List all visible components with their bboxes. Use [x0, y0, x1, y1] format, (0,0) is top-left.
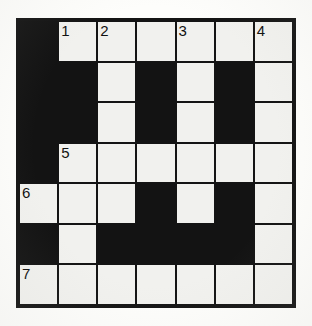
crossword-open-cell[interactable]: 4 — [254, 21, 293, 62]
clue-number: 2 — [100, 22, 108, 39]
crossword-open-cell[interactable] — [97, 183, 136, 224]
crossword-open-cell[interactable] — [176, 62, 215, 103]
crossword-open-cell[interactable] — [58, 264, 97, 305]
crossword-open-cell[interactable] — [97, 264, 136, 305]
clue-number: 1 — [61, 22, 69, 39]
crossword-block-cell — [136, 224, 175, 265]
crossword-open-cell[interactable] — [215, 264, 254, 305]
crossword-open-cell[interactable] — [136, 143, 175, 184]
crossword-open-cell[interactable] — [176, 183, 215, 224]
crossword-block-cell — [58, 62, 97, 103]
crossword-block-cell — [97, 224, 136, 265]
crossword-block-cell — [58, 102, 97, 143]
crossword-block-cell — [19, 143, 58, 184]
crossword-open-cell[interactable] — [254, 264, 293, 305]
crossword-open-cell[interactable] — [254, 183, 293, 224]
crossword-block-cell — [215, 102, 254, 143]
crossword-open-cell[interactable]: 6 — [19, 183, 58, 224]
crossword-block-cell — [19, 62, 58, 103]
crossword-open-cell[interactable] — [254, 143, 293, 184]
crossword-open-cell[interactable] — [136, 264, 175, 305]
crossword-block-cell — [215, 183, 254, 224]
crossword-open-cell[interactable]: 1 — [58, 21, 97, 62]
crossword-block-cell — [136, 183, 175, 224]
crossword-open-cell[interactable] — [215, 143, 254, 184]
crossword-block-cell — [19, 102, 58, 143]
crossword-block-cell — [136, 102, 175, 143]
crossword-open-cell[interactable] — [176, 143, 215, 184]
crossword-open-cell[interactable]: 7 — [19, 264, 58, 305]
crossword-block-cell — [215, 62, 254, 103]
crossword-open-cell[interactable] — [136, 21, 175, 62]
crossword-open-cell[interactable] — [97, 102, 136, 143]
crossword-open-cell[interactable]: 3 — [176, 21, 215, 62]
crossword-block-cell — [215, 224, 254, 265]
clue-number: 6 — [22, 184, 30, 201]
clue-number: 7 — [22, 265, 30, 282]
crossword-block-cell — [19, 224, 58, 265]
crossword-open-cell[interactable] — [254, 62, 293, 103]
crossword-open-cell[interactable] — [97, 143, 136, 184]
crossword-grid[interactable]: 1234567 — [16, 18, 296, 308]
crossword-open-cell[interactable] — [58, 224, 97, 265]
clue-number: 4 — [257, 22, 265, 39]
crossword-open-cell[interactable]: 5 — [58, 143, 97, 184]
crossword-open-cell[interactable] — [254, 224, 293, 265]
crossword-block-cell — [136, 62, 175, 103]
crossword-puzzle: 1234567 — [0, 0, 312, 326]
crossword-open-cell[interactable] — [215, 21, 254, 62]
crossword-open-cell[interactable] — [176, 264, 215, 305]
clue-number: 5 — [61, 144, 69, 161]
crossword-block-cell — [19, 21, 58, 62]
crossword-open-cell[interactable] — [58, 183, 97, 224]
clue-number: 3 — [179, 22, 187, 39]
crossword-block-cell — [176, 224, 215, 265]
crossword-open-cell[interactable] — [97, 62, 136, 103]
crossword-open-cell[interactable]: 2 — [97, 21, 136, 62]
crossword-open-cell[interactable] — [254, 102, 293, 143]
crossword-open-cell[interactable] — [176, 102, 215, 143]
